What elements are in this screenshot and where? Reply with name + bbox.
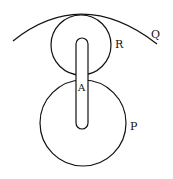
- label-r: R: [115, 39, 123, 50]
- label-q: Q: [151, 29, 160, 40]
- diagram-svg: [0, 0, 173, 179]
- label-p: P: [130, 121, 137, 132]
- label-a: A: [78, 83, 85, 93]
- diagram-canvas: Q R A P: [0, 0, 173, 179]
